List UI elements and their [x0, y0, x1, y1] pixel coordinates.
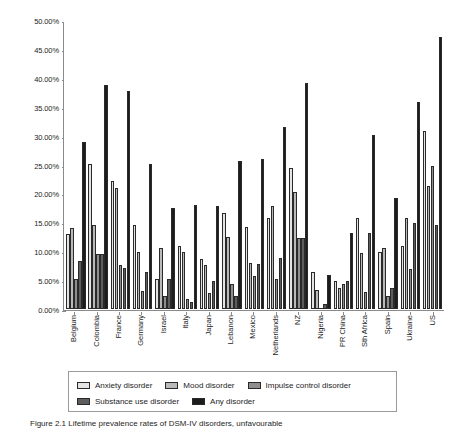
bar [271, 206, 274, 309]
bar [305, 83, 308, 309]
x-axis-cell: Nigeria [309, 312, 331, 364]
bar [88, 164, 91, 309]
legend-item: Any disorder [192, 397, 255, 406]
y-axis-tick-label: 5.00% [38, 278, 59, 286]
y-axis-tick-label: 15.00% [34, 220, 59, 228]
bar [417, 102, 420, 309]
bar [435, 225, 438, 309]
bar [360, 253, 363, 309]
bar-cluster [176, 22, 198, 309]
bar [267, 218, 270, 309]
x-axis-cell: Colombia [85, 312, 107, 364]
bar [405, 218, 408, 309]
bar [115, 188, 118, 309]
y-axis-tick-label: 45.00% [34, 47, 59, 55]
bar [319, 308, 322, 309]
bar [194, 205, 197, 309]
bar-groups [65, 22, 444, 309]
bar [394, 198, 397, 309]
bar [346, 281, 349, 309]
bar [78, 261, 81, 309]
bar [311, 272, 314, 309]
bar-cluster [110, 22, 132, 309]
bar [104, 85, 107, 309]
x-axis-cell: PR China [332, 312, 354, 364]
bar-cluster [377, 22, 399, 309]
y-axis-tick-label: 30.00% [34, 134, 59, 142]
bar [342, 284, 345, 309]
bar [382, 248, 385, 309]
bar [368, 233, 371, 309]
bar-cluster [87, 22, 109, 309]
legend-label: Any disorder [210, 397, 255, 406]
x-axis-cell: Netherlands [265, 312, 287, 364]
x-axis-cell: Lebanon [220, 312, 242, 364]
x-axis-tick-label: Sth Africa [361, 315, 369, 347]
x-axis-cell: Japan [197, 312, 219, 364]
y-axis-tick-label: 20.00% [34, 191, 59, 199]
figure-container: 0.00%5.00%10.00%15.00%20.00%25.00%30.00%… [0, 0, 462, 433]
x-axis-cell: Italy [175, 312, 197, 364]
bar [74, 279, 77, 309]
x-axis-tick-label: Spain [384, 315, 392, 334]
legend-item: Impulse control disorder [248, 381, 351, 390]
legend-item: Substance use disorder [77, 397, 179, 406]
x-axis-cell: Germany [130, 312, 152, 364]
bar-cluster [65, 22, 87, 309]
x-axis-tick-label: Netherlands [272, 315, 280, 355]
bar [378, 252, 381, 309]
bar [390, 288, 393, 309]
bar [439, 37, 442, 309]
bar [234, 296, 237, 309]
bar [315, 290, 318, 309]
bar-cluster [288, 22, 310, 309]
legend-label: Impulse control disorder [266, 381, 351, 390]
bar [327, 275, 330, 309]
bar [238, 161, 241, 309]
bar-cluster [399, 22, 421, 309]
bar [127, 91, 130, 309]
bar [261, 159, 264, 309]
y-axis-tick-label: 25.00% [34, 163, 59, 171]
bar [141, 291, 144, 309]
bar [111, 181, 114, 309]
legend-swatch-icon [192, 398, 205, 405]
y-axis-tick-label: 10.00% [34, 249, 59, 257]
bar [159, 248, 162, 309]
bar-cluster [221, 22, 243, 309]
x-axis-tick-label: Italy [182, 315, 190, 329]
bar-cluster [199, 22, 221, 309]
chart-legend: Anxiety disorderMood disorderImpulse con… [68, 371, 397, 412]
bar [182, 252, 185, 309]
bar [123, 268, 126, 309]
legend-label: Mood disorder [183, 381, 234, 390]
x-axis-tick-label: France [115, 315, 123, 338]
legend-label: Anxiety disorder [95, 381, 152, 390]
x-axis-cell: NZ [287, 312, 309, 364]
bar [212, 281, 215, 309]
x-axis-cell: France [108, 312, 130, 364]
bar [253, 276, 256, 309]
bar [350, 233, 353, 309]
x-axis-cell: Belgium [63, 312, 85, 364]
bar [372, 135, 375, 309]
x-axis-tick-label: Mexico [249, 315, 257, 339]
bar [100, 254, 103, 309]
bar [92, 225, 95, 309]
bar [431, 166, 434, 310]
bar-cluster [333, 22, 355, 309]
bar [364, 292, 367, 309]
bar-cluster [310, 22, 332, 309]
x-axis-tick-label: Israel [160, 315, 168, 333]
y-axis-tick-label: 35.00% [34, 105, 59, 113]
legend-swatch-icon [77, 382, 90, 389]
bar-cluster [154, 22, 176, 309]
y-axis-tick-label: 0.00% [38, 307, 59, 315]
bar [226, 237, 229, 309]
x-axis-tick-label: Germany [137, 315, 145, 346]
bar [427, 186, 430, 309]
x-axis-cell: Ukraine [399, 312, 421, 364]
bar [289, 168, 292, 309]
x-axis-cell: Israel [153, 312, 175, 364]
legend-label: Substance use disorder [95, 397, 179, 406]
